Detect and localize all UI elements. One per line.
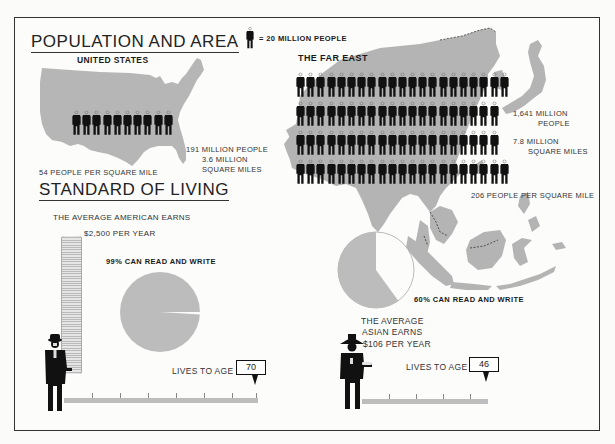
person-figure-icon bbox=[113, 110, 122, 136]
person-figure-icon bbox=[347, 72, 356, 98]
person-figure-icon bbox=[500, 159, 509, 185]
american-literacy-pie bbox=[120, 272, 202, 354]
person-figure-icon bbox=[327, 72, 336, 98]
person-figure-icon bbox=[469, 130, 478, 156]
person-figure-icon bbox=[133, 110, 142, 136]
person-figure-icon bbox=[103, 110, 112, 136]
legend: = 20 MILLION PEOPLE bbox=[245, 27, 347, 49]
person-figure-icon bbox=[439, 72, 448, 98]
american-lifespan-value: 70 bbox=[236, 360, 266, 375]
american-lifespan-label: LIVES TO AGE bbox=[172, 366, 233, 377]
person-figure-icon bbox=[418, 159, 427, 185]
person-figure-icon bbox=[316, 159, 325, 185]
person-figure-icon bbox=[92, 110, 101, 136]
asian-lifespan-pointer bbox=[483, 372, 489, 382]
person-figure-icon bbox=[428, 159, 437, 185]
person-figure-icon bbox=[479, 159, 488, 185]
person-figure-icon bbox=[367, 130, 376, 156]
us-population-figures bbox=[72, 110, 173, 136]
person-figure-icon bbox=[347, 130, 356, 156]
person-figure-icon bbox=[398, 101, 407, 127]
person-figure-icon bbox=[459, 159, 468, 185]
person-figure-icon bbox=[428, 130, 437, 156]
person-figure-icon bbox=[490, 130, 499, 156]
person-figure-icon bbox=[296, 72, 305, 98]
person-figure-icon bbox=[439, 130, 448, 156]
far-east-figure-row bbox=[296, 130, 499, 156]
asian-earns-line-1: THE AVERAGE bbox=[361, 316, 424, 327]
american-income-label: $2,500 PER YEAR bbox=[84, 228, 156, 239]
person-figure-icon bbox=[337, 101, 346, 127]
person-figure-icon bbox=[388, 130, 397, 156]
american-lifespan-timeline bbox=[64, 398, 258, 403]
person-figure-icon bbox=[357, 72, 366, 98]
person-figure-icon bbox=[459, 72, 468, 98]
person-figure-icon bbox=[398, 72, 407, 98]
person-figure-icon bbox=[378, 72, 387, 98]
person-figure-icon bbox=[378, 159, 387, 185]
population-and-area-title: POPULATION AND AREA bbox=[31, 33, 239, 53]
person-figure-icon bbox=[154, 110, 163, 136]
person-figure-icon bbox=[327, 159, 336, 185]
person-figure-icon bbox=[459, 130, 468, 156]
person-figure-icon bbox=[490, 72, 499, 98]
person-figure-icon bbox=[245, 27, 255, 49]
person-figure-icon bbox=[428, 101, 437, 127]
person-figure-icon bbox=[428, 72, 437, 98]
person-figure-icon bbox=[398, 130, 407, 156]
person-figure-icon bbox=[337, 72, 346, 98]
person-figure-icon bbox=[316, 130, 325, 156]
person-figure-icon bbox=[306, 72, 315, 98]
person-figure-icon bbox=[316, 101, 325, 127]
person-figure-icon bbox=[72, 110, 81, 136]
person-figure-icon bbox=[408, 72, 417, 98]
far-east-area-unit-label: SQUARE MILES bbox=[528, 146, 588, 157]
us-density-label: 54 PEOPLE PER SQUARE MILE bbox=[39, 167, 158, 178]
person-figure-icon bbox=[479, 72, 488, 98]
person-figure-icon bbox=[337, 159, 346, 185]
person-figure-icon bbox=[378, 101, 387, 127]
far-east-density-label: 206 PEOPLE PER SQUARE MILE bbox=[471, 190, 594, 201]
person-figure-icon bbox=[316, 72, 325, 98]
person-figure-icon bbox=[469, 72, 478, 98]
person-figure-icon bbox=[306, 159, 315, 185]
far-east-population-unit-label: PEOPLE bbox=[538, 118, 570, 129]
person-figure-icon bbox=[449, 159, 458, 185]
person-figure-icon bbox=[306, 130, 315, 156]
person-figure-icon bbox=[418, 72, 427, 98]
person-figure-icon bbox=[123, 110, 132, 136]
person-figure-icon bbox=[408, 101, 417, 127]
person-figure-icon bbox=[337, 130, 346, 156]
person-figure-icon bbox=[327, 101, 336, 127]
asian-lifespan-value: 46 bbox=[469, 357, 499, 372]
person-figure-icon bbox=[479, 101, 488, 127]
asian-lifespan-label: LIVES TO AGE bbox=[406, 362, 467, 373]
person-figure-icon bbox=[418, 130, 427, 156]
person-figure-icon bbox=[449, 130, 458, 156]
us-area-unit-label: SQUARE MILES bbox=[202, 164, 262, 175]
american-literacy-label: 99% CAN READ AND WRITE bbox=[106, 257, 216, 266]
us-heading: UNITED STATES bbox=[77, 55, 148, 65]
person-figure-icon bbox=[327, 130, 336, 156]
person-figure-icon bbox=[439, 159, 448, 185]
person-figure-icon bbox=[296, 101, 305, 127]
person-figure-icon bbox=[357, 101, 366, 127]
person-figure-icon bbox=[388, 72, 397, 98]
standard-of-living-title: STANDARD OF LIVING bbox=[39, 181, 229, 201]
person-figure-icon bbox=[347, 159, 356, 185]
person-figure-icon bbox=[388, 159, 397, 185]
asian-lifespan-timeline bbox=[362, 399, 488, 404]
person-figure-icon bbox=[449, 72, 458, 98]
legend-text: = 20 MILLION PEOPLE bbox=[259, 34, 347, 43]
person-figure-icon bbox=[378, 130, 387, 156]
american-earns-label: THE AVERAGE AMERICAN EARNS bbox=[53, 212, 190, 223]
far-east-figure-row bbox=[296, 101, 499, 127]
far-east-figure-row bbox=[296, 159, 509, 185]
person-figure-icon bbox=[367, 159, 376, 185]
person-figure-icon bbox=[367, 72, 376, 98]
person-figure-icon bbox=[357, 130, 366, 156]
far-east-heading: THE FAR EAST bbox=[298, 53, 368, 63]
far-east-figure-row bbox=[296, 72, 509, 98]
person-figure-icon bbox=[479, 130, 488, 156]
person-figure-icon bbox=[82, 110, 91, 136]
